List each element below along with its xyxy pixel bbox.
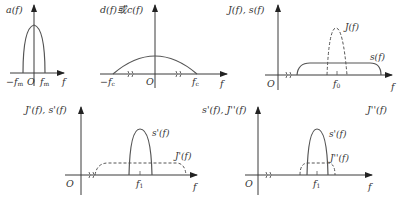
origin-label: O — [245, 178, 253, 189]
y-label: d(f)或c(f) — [100, 4, 144, 15]
x-label: f — [219, 78, 225, 89]
panel-J: J(f), s(f) J(f) s(f) O f0 f — [226, 4, 396, 92]
curve-s-prime — [307, 129, 328, 175]
spectrum-diagram: a(f) −fm O fm f d(f)或c(f) −fc O fc f J(f… — [0, 0, 401, 201]
curve-label-J-prime: J'(f) — [173, 151, 192, 161]
curve-label-J: J(f) — [343, 22, 359, 32]
panel-Jp: J'(f), s'(f) s'(f) J'(f) O f1 f — [23, 104, 198, 195]
y-label: J'(f), s'(f) — [23, 104, 67, 115]
tick-pos: fc — [191, 76, 200, 87]
curve-label-s-prime: s'(f) — [329, 129, 347, 139]
curve-label-J-double-prime: J''(f) — [328, 153, 349, 163]
curve-J — [327, 28, 347, 75]
tick-neg: −fm — [6, 76, 23, 87]
curve-J-prime — [95, 163, 186, 175]
corner-label: J''(f) — [365, 104, 387, 115]
panel-a: a(f) −fm O fm f — [6, 4, 67, 87]
origin-label: O — [66, 178, 74, 189]
y-label: a(f) — [6, 4, 23, 15]
tick-pos: fm — [39, 76, 50, 87]
panel-Jpp: s'(f), J''(f) s'(f) J''(f) O f1 f J''(f) — [202, 104, 387, 195]
curve-J-double-prime — [300, 163, 335, 175]
x-label: f — [192, 181, 198, 192]
tick-f1-label: f1 — [135, 178, 143, 189]
origin-label: O — [267, 78, 275, 89]
x-label: f — [390, 81, 396, 92]
tick-f1-label: f1 — [312, 178, 320, 189]
x-label: f — [61, 76, 67, 87]
y-label: J(f), s(f) — [226, 4, 265, 15]
curve-label-s-prime: s'(f) — [152, 128, 170, 138]
curve-label-s: s(f) — [370, 52, 385, 62]
tick-neg: −fc — [100, 76, 115, 87]
curve-s — [297, 63, 381, 75]
tick-f0-label: f0 — [332, 78, 341, 89]
panel-d: d(f)或c(f) −fc O fc f — [100, 4, 227, 89]
curve-s-prime — [129, 129, 152, 175]
origin-label: O — [146, 76, 154, 87]
x-label: f — [367, 181, 373, 192]
origin-label: O — [27, 76, 35, 87]
y-label: s'(f), J''(f) — [202, 104, 247, 115]
